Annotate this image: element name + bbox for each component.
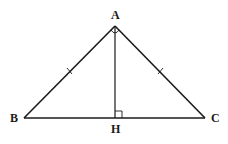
right-angle-marker-h bbox=[115, 111, 122, 118]
label-a: A bbox=[111, 8, 120, 22]
label-c: C bbox=[211, 111, 220, 125]
label-h: H bbox=[111, 122, 121, 136]
triangle-diagram: A B C H bbox=[0, 0, 228, 144]
label-b: B bbox=[10, 111, 18, 125]
segment-ab bbox=[24, 26, 115, 118]
